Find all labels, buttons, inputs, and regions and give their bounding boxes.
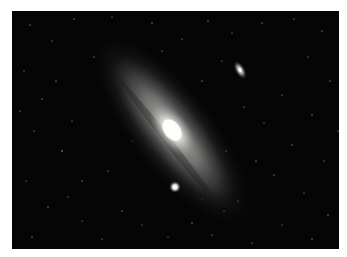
galaxy [66,11,277,249]
galaxy-photo [12,11,339,249]
companion-galaxy-lower [169,181,181,193]
photo-frame [12,11,339,249]
companion-galaxy-upper [231,59,250,81]
